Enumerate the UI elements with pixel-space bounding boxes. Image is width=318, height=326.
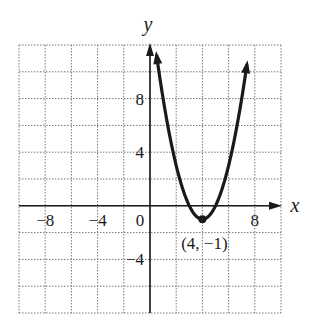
parabola-plot: −8−40884−4xy(4, −1)	[0, 0, 318, 326]
curve-arrow-left-icon	[153, 51, 162, 64]
x-tick-label: 8	[251, 211, 260, 230]
x-tick-label: −4	[89, 211, 108, 230]
y-axis-arrow-icon	[146, 43, 154, 56]
y-tick-label: 8	[136, 90, 145, 109]
vertex-point	[198, 215, 206, 223]
parabola-curve	[157, 55, 247, 219]
y-axis-label: y	[142, 13, 153, 36]
vertex-annotation: (4, −1)	[181, 234, 227, 253]
tick-labels: −8−40884−4xy(4, −1)	[36, 13, 299, 269]
y-tick-label: −4	[126, 250, 145, 269]
x-tick-label: 0	[136, 211, 145, 230]
curve-arrow-right-icon	[241, 60, 250, 74]
y-tick-label: 4	[136, 143, 145, 162]
x-axis-arrow-icon	[269, 202, 282, 210]
x-tick-label: −8	[36, 211, 54, 230]
x-axis-label: x	[290, 194, 300, 216]
